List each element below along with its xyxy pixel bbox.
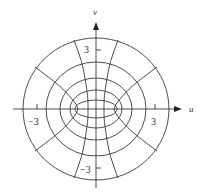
tick-label-y-neg3: −3 [80,164,91,175]
v-axis-arrow-icon [93,22,99,30]
u-axis-label: u [189,104,194,114]
tick-label-y-3: 3 [84,44,89,55]
elliptic-coordinates-diagram: v u 3 −3 −3 3 [0,0,205,193]
u-axis-arrow-icon [174,106,182,112]
v-axis-label: v [93,7,97,17]
axes [13,22,182,188]
hyperbola-curve-1-2 [104,40,118,109]
hyperbola-curve-1-4 [104,109,118,178]
axis-labels: v u 3 −3 −3 3 [28,7,194,175]
tick-label-x-3: 3 [151,116,156,127]
tick-label-x-neg3: −3 [28,116,39,127]
